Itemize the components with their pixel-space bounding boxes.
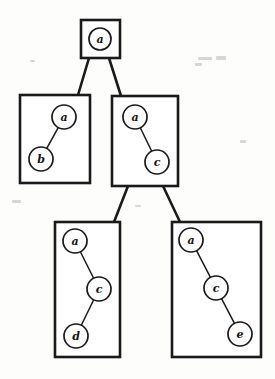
root-graph-box[interactable]: a	[81, 20, 120, 58]
paper-speck	[198, 57, 212, 60]
boxes-layer: aabacacdace	[20, 20, 261, 357]
graph-node-b[interactable]	[29, 147, 53, 171]
bottom-right-graph-box[interactable]: ace	[172, 222, 261, 357]
paper-speck	[30, 60, 35, 62]
graph-node-d[interactable]	[64, 324, 88, 348]
paper-speck	[135, 205, 141, 207]
bottom-left-graph-box[interactable]: acd	[55, 222, 120, 357]
graph-node-c[interactable]	[145, 150, 169, 174]
tree-link-root-to-left	[78, 58, 89, 95]
graph-node-a[interactable]	[123, 105, 147, 129]
paper-speck	[240, 140, 246, 143]
paper-speck	[195, 63, 202, 66]
right-graph-box[interactable]: ac	[112, 96, 178, 186]
graph-node-a[interactable]	[63, 229, 87, 253]
graph-node-c[interactable]	[87, 277, 111, 301]
tree-link-right-to-bottom-left	[114, 186, 128, 222]
paper-speck	[216, 56, 226, 60]
diagram-canvas: aabacacdace	[0, 0, 275, 379]
graph-node-a[interactable]	[179, 228, 203, 252]
graph-tree-diagram: aabacacdace	[0, 0, 275, 379]
graph-node-e[interactable]	[228, 322, 252, 346]
graph-node-c[interactable]	[204, 276, 228, 300]
graph-node-a[interactable]	[52, 105, 76, 129]
graph-node-a[interactable]	[89, 28, 111, 50]
paper-speck	[12, 200, 21, 203]
left-graph-box[interactable]: ab	[20, 95, 90, 183]
tree-link-root-to-right	[109, 58, 121, 96]
tree-link-right-to-bottom-right	[163, 186, 180, 222]
